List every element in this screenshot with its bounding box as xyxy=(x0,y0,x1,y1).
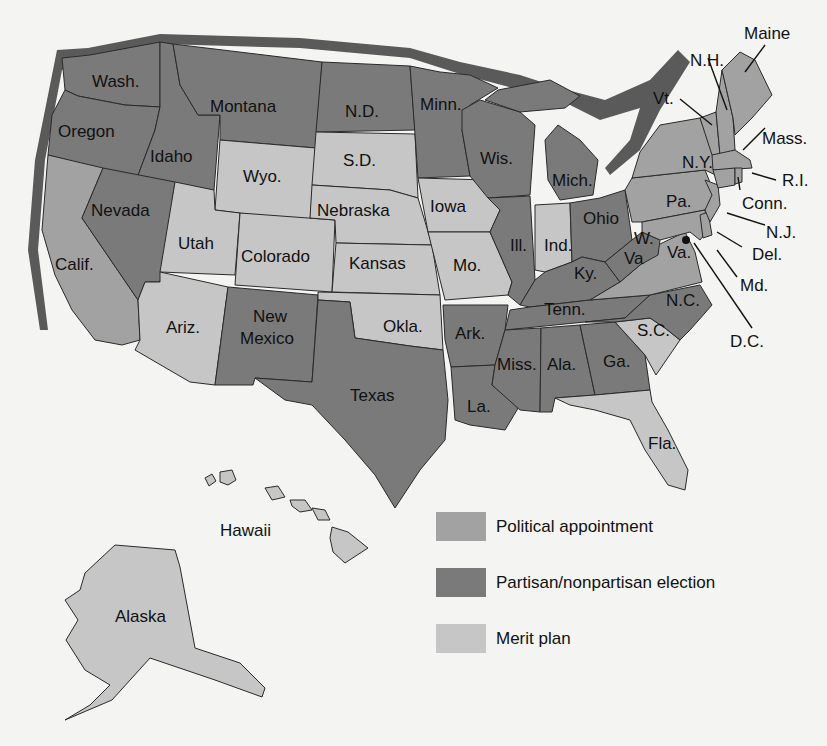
state-alaska[interactable] xyxy=(65,545,265,720)
label-ga: Ga. xyxy=(603,353,630,370)
legend-label: Partisan/nonpartisan election xyxy=(496,573,715,593)
label-wash: Wash. xyxy=(92,73,140,90)
label-iowa: Iowa xyxy=(430,198,466,215)
label-nm1: New xyxy=(253,308,287,325)
label-okla: Okla. xyxy=(383,318,423,335)
legend-swatch xyxy=(436,624,486,653)
label-pa: Pa. xyxy=(666,193,692,210)
legend-label: Merit plan xyxy=(496,629,571,649)
legend-item-merit-plan: Merit plan xyxy=(436,624,571,653)
label-hawaii: Hawaii xyxy=(220,522,271,539)
label-la: La. xyxy=(467,398,491,415)
legend-label: Political appointment xyxy=(496,517,653,537)
label-texas: Texas xyxy=(350,387,394,404)
label-md: Md. xyxy=(740,277,768,294)
label-va: Va. xyxy=(667,244,691,261)
label-kansas: Kansas xyxy=(349,255,406,272)
label-oregon: Oregon xyxy=(58,123,115,140)
label-nh: N.H. xyxy=(690,52,724,69)
label-ariz: Ariz. xyxy=(166,319,200,336)
label-nebraska: Nebraska xyxy=(317,202,390,219)
label-montana: Montana xyxy=(210,98,276,115)
label-sd: S.D. xyxy=(343,152,376,169)
label-nj: N.J. xyxy=(766,224,796,241)
legend-swatch xyxy=(436,512,486,541)
label-conn: Conn. xyxy=(742,195,787,212)
label-mich: Mich. xyxy=(552,172,593,189)
legend-swatch xyxy=(436,568,486,597)
legend-item-election: Partisan/nonpartisan election xyxy=(436,568,715,597)
label-tenn: Tenn. xyxy=(544,301,586,318)
label-utah: Utah xyxy=(178,235,214,252)
label-ky: Ky. xyxy=(574,265,597,282)
label-ark: Ark. xyxy=(455,325,485,342)
label-minn: Minn. xyxy=(420,96,462,113)
label-mass: Mass. xyxy=(762,130,807,147)
label-sc: S.C. xyxy=(637,322,670,339)
label-del: Del. xyxy=(752,246,782,263)
label-ill: Ill. xyxy=(510,237,527,254)
state-nd[interactable] xyxy=(316,62,415,132)
us-judicial-selection-map xyxy=(0,0,827,746)
label-maine: Maine xyxy=(744,25,790,42)
label-ohio: Ohio xyxy=(583,210,619,227)
label-mo: Mo. xyxy=(453,257,481,274)
label-ny: N.Y. xyxy=(682,154,713,171)
label-wyo: Wyo. xyxy=(243,168,282,185)
label-nd: N.D. xyxy=(345,103,379,120)
label-ri: R.I. xyxy=(782,172,808,189)
label-wva1: W. xyxy=(634,230,654,247)
label-calif: Calif. xyxy=(55,256,94,273)
label-alaska: Alaska xyxy=(115,608,166,625)
label-nc: N.C. xyxy=(666,292,700,309)
label-colorado: Colorado xyxy=(241,248,310,265)
label-wva2: Va xyxy=(624,250,644,267)
label-nevada: Nevada xyxy=(91,202,150,219)
label-vt: Vt. xyxy=(653,90,674,107)
label-ind: Ind. xyxy=(544,237,572,254)
label-miss: Miss. xyxy=(497,356,537,373)
legend-item-political-appointment: Political appointment xyxy=(436,512,653,541)
label-ala: Ala. xyxy=(547,356,576,373)
label-idaho: Idaho xyxy=(150,148,193,165)
label-fla: Fla. xyxy=(648,435,676,452)
label-nm2: Mexico xyxy=(240,330,294,347)
label-dc: D.C. xyxy=(730,333,764,350)
state-hawaii[interactable] xyxy=(205,470,368,563)
label-wis: Wis. xyxy=(480,150,513,167)
